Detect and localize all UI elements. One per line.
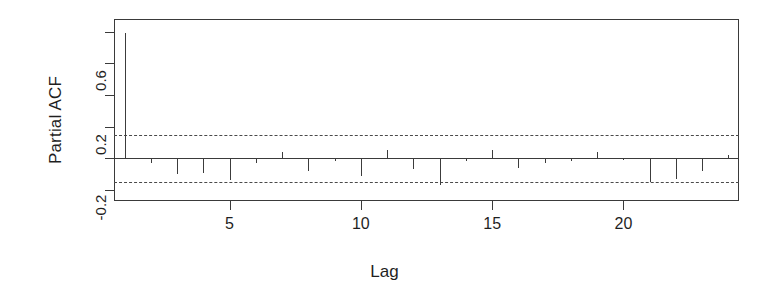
pacf-spike [545,158,546,163]
x-axis-tick [623,201,624,210]
pacf-spike [335,158,336,161]
series-spikes [114,19,739,201]
pacf-spike [571,158,572,161]
pacf-spike [676,158,677,179]
x-axis-tick-label: 5 [200,215,260,233]
pacf-spike [230,158,231,180]
pacf-spike [308,158,309,171]
x-axis-tick-label: 20 [593,215,653,233]
pacf-spike [282,152,283,158]
pacf-spike [597,152,598,158]
pacf-plot: Partial ACF -0.20.20.6 5101520 Lag [0,0,769,305]
pacf-spike [387,150,388,158]
x-axis-tick [492,201,493,210]
y-axis-tick-label: -0.2 [92,189,109,225]
pacf-spike [650,158,651,182]
confidence-bound-line [114,135,739,136]
pacf-spike [466,158,467,161]
pacf-spike [440,158,441,185]
x-axis-tick-label: 10 [331,215,391,233]
x-axis-tick [230,201,231,210]
pacf-spike [361,158,362,175]
x-axis-tick [361,201,362,210]
pacf-spike [151,158,152,163]
pacf-spike [203,158,204,172]
y-axis-title: Partial ACF [46,10,66,230]
pacf-spike [518,158,519,167]
x-axis-title: Lag [0,262,769,282]
pacf-spike [256,158,257,163]
pacf-spike [125,33,126,158]
pacf-spike [492,150,493,158]
pacf-spike [728,155,729,158]
pacf-spike [702,158,703,171]
y-axis-tick-label: 0.6 [92,63,109,99]
pacf-spike [413,158,414,169]
zero-line [114,158,739,159]
pacf-spike [623,158,624,160]
x-axis-tick-label: 15 [462,215,522,233]
y-axis-tick-label: 0.2 [92,126,109,162]
confidence-bound-line [114,182,739,183]
y-axis-tick [105,32,114,33]
pacf-spike [177,158,178,174]
